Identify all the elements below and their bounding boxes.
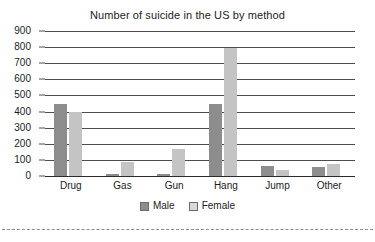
bar-jump-male bbox=[261, 166, 274, 176]
bar-jump-female bbox=[276, 170, 289, 176]
bar-group bbox=[303, 31, 355, 176]
bar-group bbox=[252, 31, 304, 176]
legend-swatch-male-icon bbox=[140, 202, 149, 211]
y-axis-tick-label: 300 bbox=[0, 123, 31, 133]
bar-other-male bbox=[312, 167, 325, 176]
gridline bbox=[45, 176, 355, 177]
legend-item-female: Female bbox=[189, 201, 235, 211]
bottom-dashed-divider bbox=[2, 229, 373, 230]
y-axis-tick-label: 700 bbox=[0, 58, 31, 68]
legend-label-male: Male bbox=[153, 201, 175, 211]
bar-hang-female bbox=[224, 48, 237, 176]
bar-gun-female bbox=[172, 149, 185, 176]
bar-chart-figure: Number of suicide in the US by method 90… bbox=[0, 0, 375, 242]
x-axis-tick-label: Jump bbox=[265, 180, 289, 191]
bar-gas-male bbox=[106, 174, 119, 176]
x-axis-tick-label: Other bbox=[317, 180, 342, 191]
legend-swatch-female-icon bbox=[189, 202, 198, 211]
y-axis-tick-label: 800 bbox=[0, 42, 31, 52]
x-axis-tick-label: Hang bbox=[214, 180, 238, 191]
y-axis-tick-label: 200 bbox=[0, 139, 31, 149]
x-axis: DrugGasGunHangJumpOther bbox=[45, 180, 355, 196]
x-axis-tick-label: Drug bbox=[60, 180, 82, 191]
y-axis-tick-label: 100 bbox=[0, 155, 31, 165]
bars-layer bbox=[45, 31, 355, 176]
legend-label-female: Female bbox=[202, 201, 235, 211]
bar-other-female bbox=[327, 164, 340, 176]
y-axis-tick-label: 0 bbox=[0, 171, 31, 181]
y-axis-tick-label: 600 bbox=[0, 74, 31, 84]
bar-group bbox=[148, 31, 200, 176]
bar-gun-male bbox=[157, 174, 170, 176]
y-axis-tick-label: 900 bbox=[0, 26, 31, 36]
bar-group bbox=[45, 31, 97, 176]
chart-title: Number of suicide in the US by method bbox=[0, 9, 375, 21]
bar-hang-male bbox=[209, 104, 222, 177]
x-axis-tick-label: Gas bbox=[113, 180, 131, 191]
y-axis-tick-label: 400 bbox=[0, 107, 31, 117]
y-axis-tick-label: 500 bbox=[0, 90, 31, 100]
bar-drug-male bbox=[54, 104, 67, 176]
legend-item-male: Male bbox=[140, 201, 175, 211]
bar-gas-female bbox=[121, 162, 134, 176]
bar-group bbox=[97, 31, 149, 176]
x-axis-tick-label: Gun bbox=[165, 180, 184, 191]
bar-drug-female bbox=[69, 112, 82, 176]
chart-legend: Male Female bbox=[0, 201, 375, 211]
bar-group bbox=[200, 31, 252, 176]
